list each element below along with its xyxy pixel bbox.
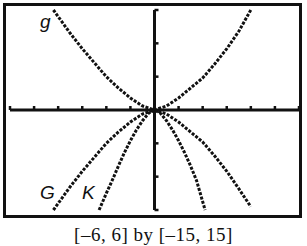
- curve-label-G: G: [40, 183, 55, 202]
- curve-label-g: g: [40, 12, 51, 31]
- window-caption: [–6, 6] by [–15, 15]: [0, 224, 307, 246]
- curve-label-K: K: [82, 183, 95, 202]
